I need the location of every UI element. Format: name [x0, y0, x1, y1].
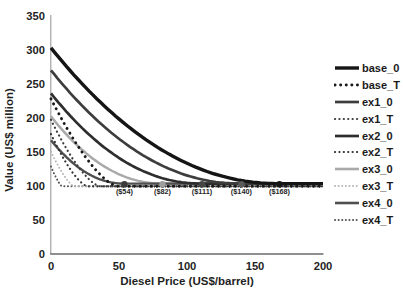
legend-label: ex4_T: [362, 214, 393, 226]
y-tick-label: 200: [26, 112, 45, 124]
chart-figure: Diesel Price (US$/barrel) Value (US$ mil…: [0, 0, 403, 296]
legend-sample-ex1_0: [334, 97, 360, 107]
legend-label: base_0: [362, 62, 399, 74]
legend-label: base_T: [362, 79, 400, 91]
legend-item-base_0: base_0: [334, 60, 400, 77]
series-base_T: [51, 99, 323, 187]
y-tick-label: 250: [26, 78, 45, 90]
chart-legend: base_0base_Tex1_0ex1_Tex2_0ex2_Tex3_0ex3…: [334, 60, 400, 228]
y-tick-label: 300: [26, 44, 45, 56]
legend-sample-base_T: [334, 80, 360, 90]
breakeven-label: ($82): [154, 187, 172, 196]
legend-sample-ex3_T: [334, 181, 360, 191]
x-tick-label: 0: [48, 260, 54, 272]
y-axis-title: Value (US$ million): [3, 88, 15, 192]
legend-label: ex1_0: [362, 96, 393, 108]
legend-item-ex4_0: ex4_0: [334, 194, 400, 211]
legend-label: ex2_0: [362, 130, 393, 142]
legend-label: ex3_0: [362, 163, 393, 175]
legend-sample-base_0: [334, 63, 360, 73]
breakeven-label: ($168): [269, 187, 291, 196]
legend-label: ex1_T: [362, 113, 393, 125]
legend-sample-ex4_T: [334, 215, 360, 225]
legend-item-base_T: base_T: [334, 77, 400, 94]
series-ex2_T: [51, 134, 323, 186]
legend-sample-ex4_0: [334, 198, 360, 208]
legend-item-ex1_0: ex1_0: [334, 94, 400, 111]
x-axis-title: Diesel Price (US$/barrel): [120, 275, 254, 287]
series-layer: [51, 48, 323, 186]
x-tick-label: 100: [178, 260, 197, 272]
breakeven-label: ($111): [192, 187, 213, 196]
legend-sample-ex3_0: [334, 164, 360, 174]
legend-label: ex3_T: [362, 180, 393, 192]
y-tick-label: 350: [26, 10, 45, 22]
series-ex2_0: [51, 93, 323, 183]
legend-item-ex3_0: ex3_0: [334, 161, 400, 178]
series-ex3_0: [51, 116, 323, 183]
x-tick-label: 50: [113, 260, 125, 272]
legend-item-ex2_0: ex2_0: [334, 127, 400, 144]
legend-sample-ex1_T: [334, 114, 360, 124]
y-tick-label: 0: [39, 248, 45, 260]
legend-sample-ex2_0: [334, 131, 360, 141]
x-tick-label: 150: [246, 260, 265, 272]
legend-item-ex1_T: ex1_T: [334, 110, 400, 127]
breakeven-label: ($54): [116, 187, 134, 196]
legend-item-ex2_T: ex2_T: [334, 144, 400, 161]
legend-label: ex2_T: [362, 146, 393, 158]
legend-label: ex4_0: [362, 197, 393, 209]
legend-item-ex4_T: ex4_T: [334, 211, 400, 228]
x-tick-label: 200: [314, 260, 333, 272]
legend-item-ex3_T: ex3_T: [334, 178, 400, 195]
y-tick-label: 50: [33, 214, 45, 226]
y-tick-label: 100: [26, 180, 45, 192]
y-tick-label: 150: [26, 146, 45, 158]
legend-sample-ex2_T: [334, 147, 360, 157]
breakeven-label: ($140): [231, 187, 253, 196]
